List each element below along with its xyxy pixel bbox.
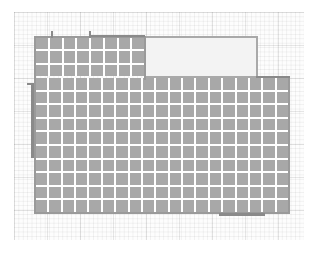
floor-tile	[250, 132, 261, 144]
floor-tile	[130, 132, 141, 144]
floor-tile	[196, 105, 207, 117]
floor-tile	[116, 187, 127, 199]
floor-tile	[143, 132, 154, 144]
floor-tile	[105, 65, 117, 76]
floor-tile	[250, 173, 261, 185]
floor-tile	[156, 146, 167, 158]
floor-tile	[263, 132, 274, 144]
floor-tile	[130, 160, 141, 172]
floor-tile	[89, 173, 100, 185]
floor-tile	[237, 132, 248, 144]
floor-tile	[223, 78, 234, 90]
door-marker-top-left	[51, 31, 53, 38]
floor-tile	[116, 119, 127, 131]
floor-tile	[196, 92, 207, 104]
floor-tile	[170, 105, 181, 117]
floor-tile	[263, 146, 274, 158]
floor-tile	[277, 78, 288, 90]
floor-tile	[130, 92, 141, 104]
floor-tile	[116, 200, 127, 212]
floor-tile	[223, 146, 234, 158]
floor-tile	[36, 160, 47, 172]
floor-tile	[143, 187, 154, 199]
floor-tile	[63, 92, 74, 104]
floor-tile	[183, 78, 194, 90]
floor-tile	[170, 146, 181, 158]
floor-tile	[36, 173, 47, 185]
floor-tile	[170, 187, 181, 199]
floor-tile	[76, 173, 87, 185]
door-segment-left	[31, 84, 34, 158]
floor-tile	[156, 92, 167, 104]
floor-tile	[89, 78, 100, 90]
floor-tile	[36, 38, 48, 49]
floor-tile	[170, 92, 181, 104]
door-segment-bottom	[219, 213, 265, 216]
floor-tile	[49, 119, 60, 131]
floor-tile	[143, 173, 154, 185]
floor-tile	[196, 173, 207, 185]
floor-tile	[223, 132, 234, 144]
floor-tile	[89, 105, 100, 117]
floor-tile	[36, 51, 48, 62]
floor-tile	[250, 187, 261, 199]
floor-tile	[63, 187, 74, 199]
floor-tile	[250, 92, 261, 104]
floor-tile	[263, 160, 274, 172]
floor-tile	[143, 78, 154, 90]
floor-tile	[156, 119, 167, 131]
floor-tile	[36, 105, 47, 117]
floor-tile	[76, 78, 87, 90]
floor-tile	[210, 160, 221, 172]
floor-tile	[196, 200, 207, 212]
floor-tile	[237, 105, 248, 117]
floor-tile	[76, 200, 87, 212]
floor-tile	[89, 146, 100, 158]
floor-tile	[170, 132, 181, 144]
floor-tile	[170, 78, 181, 90]
floor-tile	[64, 65, 76, 76]
floor-tile	[49, 187, 60, 199]
floor-tile	[119, 65, 131, 76]
floor-tile	[89, 200, 100, 212]
floor-tile	[143, 200, 154, 212]
floor-tile	[76, 146, 87, 158]
floor-tile	[250, 160, 261, 172]
floor-tile	[49, 92, 60, 104]
floor-tile	[76, 105, 87, 117]
floor-tile	[237, 146, 248, 158]
floor-tile	[105, 38, 117, 49]
floor-tile	[49, 146, 60, 158]
floor-tile	[63, 160, 74, 172]
floor-tile	[143, 146, 154, 158]
floor-tile	[250, 119, 261, 131]
door-marker-left-top	[27, 83, 34, 85]
floor-tile	[63, 173, 74, 185]
floor-tile	[103, 173, 114, 185]
floor-tile	[63, 132, 74, 144]
floor-tile	[210, 173, 221, 185]
floor-tile	[50, 65, 62, 76]
floor-tile	[210, 119, 221, 131]
floor-tile	[156, 132, 167, 144]
floor-tile	[196, 119, 207, 131]
floor-tile	[170, 119, 181, 131]
floor-tile	[50, 51, 62, 62]
floor-tile	[64, 38, 76, 49]
floor-tile	[103, 187, 114, 199]
floor-tile	[50, 38, 62, 49]
floor-tile	[170, 160, 181, 172]
floor-tile	[36, 92, 47, 104]
floor-tile	[263, 119, 274, 131]
floor-tile	[183, 132, 194, 144]
floor-tile	[105, 51, 117, 62]
floor-tile	[183, 105, 194, 117]
floor-tile	[223, 119, 234, 131]
floor-tile	[103, 78, 114, 90]
floor-tile	[116, 92, 127, 104]
floor-tile	[132, 65, 144, 76]
floor-tile	[210, 105, 221, 117]
floor-tile	[210, 200, 221, 212]
floor-tile	[130, 187, 141, 199]
floor-tile	[143, 119, 154, 131]
